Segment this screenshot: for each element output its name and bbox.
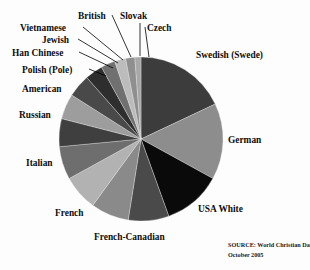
slice-label: Swedish (Swede) <box>196 50 263 61</box>
slice-label: USA White <box>198 204 243 214</box>
slice-label: Czech <box>147 23 172 33</box>
slice-label: French-Canadian <box>94 232 165 242</box>
slice-label: Jewish <box>42 35 70 45</box>
source-note-line1: SOURCE: World Christian Database. <box>228 241 310 248</box>
slice-label: Slovak <box>120 11 148 21</box>
pie-slices-group <box>59 57 223 221</box>
slice-label: Russian <box>19 110 52 120</box>
slice-label: French <box>55 208 84 218</box>
slice-label: Vietnamese <box>20 23 66 33</box>
source-note-line2: October 2005 <box>228 251 263 258</box>
slice-label: German <box>228 135 262 145</box>
slice-label: British <box>78 11 106 21</box>
slice-label: Polish (Pole) <box>22 65 72 76</box>
label-leader-line <box>83 27 123 60</box>
slice-label: Han Chinese <box>12 48 63 58</box>
label-leader-line <box>112 15 131 57</box>
source-note: SOURCE: World Christian Database. Octobe… <box>228 241 310 258</box>
pie-chart-page: Swedish (Swede)GermanUSA WhiteFrench-Can… <box>0 0 310 270</box>
slice-label: Italian <box>26 158 53 168</box>
pie-chart-figure: Swedish (Swede)GermanUSA WhiteFrench-Can… <box>0 0 310 270</box>
slice-label: American <box>22 84 62 94</box>
label-leader-line <box>79 52 113 68</box>
